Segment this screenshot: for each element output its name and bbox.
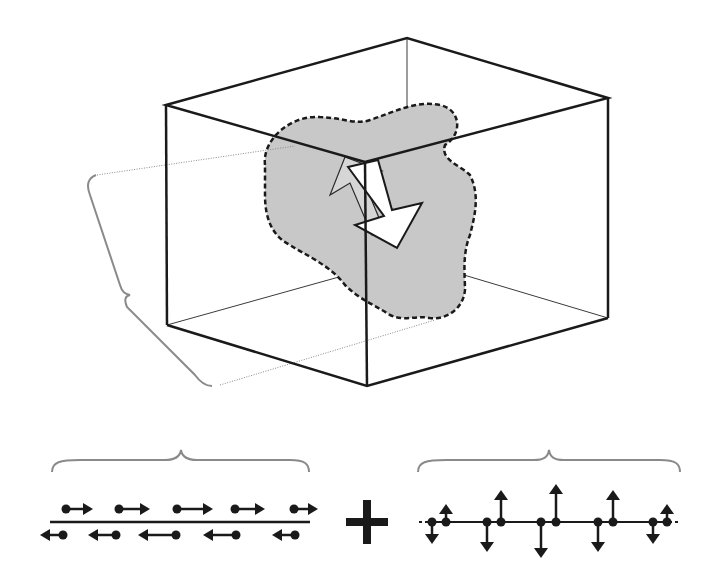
domain-brace — [88, 175, 212, 386]
spin-domain-diagram — [0, 0, 717, 586]
plus-icon — [346, 500, 388, 544]
longitudinal-brace — [52, 450, 309, 472]
transverse-brace — [418, 450, 680, 472]
transverse-spin-wave — [416, 484, 682, 558]
